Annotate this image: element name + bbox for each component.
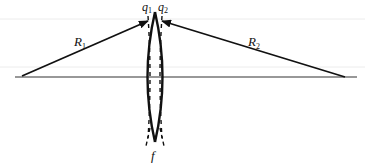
- label-r1: R1: [73, 34, 86, 51]
- label-r2: R2: [247, 34, 260, 51]
- label-focus: f: [151, 148, 157, 163]
- radius-r2-arrow: [162, 21, 345, 77]
- lens-diagram: q1 q2 R1 R2 f: [0, 0, 365, 166]
- label-q2: q2: [158, 0, 168, 15]
- label-q1: q1: [142, 0, 152, 15]
